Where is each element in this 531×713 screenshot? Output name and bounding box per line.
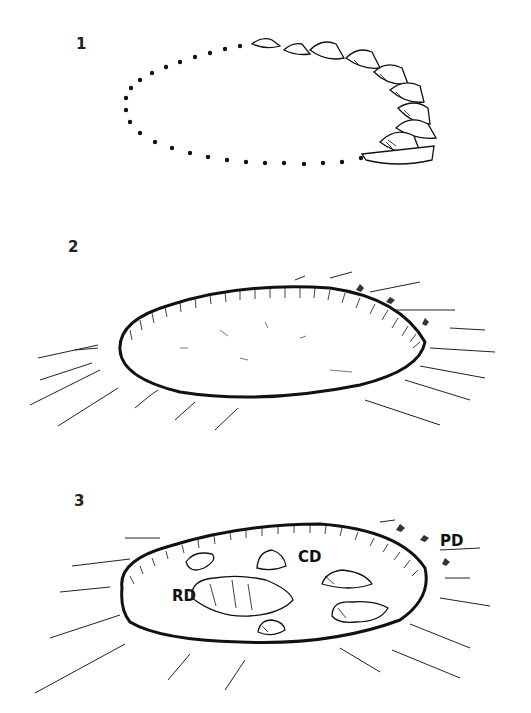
label-rd: RD: [172, 587, 196, 605]
raised-platform-illustration: [0, 230, 531, 460]
panel-1: 1: [0, 0, 531, 200]
label-cd: CD: [298, 548, 321, 566]
label-pd: PD: [440, 532, 463, 550]
panel-3: 3: [0, 480, 531, 713]
platform-with-stones-illustration: [0, 480, 531, 713]
panel-2: 2: [0, 230, 531, 460]
dotted-ellipse-with-stones-illustration: [0, 0, 531, 200]
